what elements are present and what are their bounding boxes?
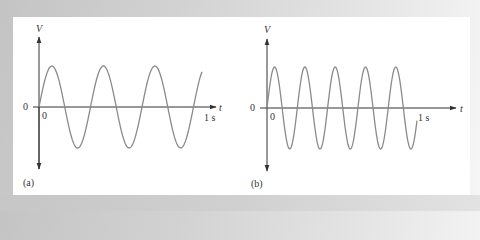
- panel-b-y-origin-label: 0: [250, 103, 255, 113]
- panel-b-caption: (b): [251, 179, 263, 189]
- panel-b-y-axis-label: V: [264, 25, 270, 35]
- panel-a-x-origin-label: 0: [42, 111, 47, 121]
- panel-a-x-axis-label: t: [219, 103, 222, 113]
- panel-b-x-origin-label: 0: [270, 112, 275, 122]
- panel-a-y-axis-label: V: [36, 24, 42, 34]
- panel-a-y-origin-label: 0: [23, 102, 28, 112]
- panel-a-caption: (a): [23, 178, 34, 188]
- panel-a-x-end-label: 1 s: [204, 113, 215, 123]
- panel-b-x-axis-label: t: [460, 104, 463, 114]
- panel-a-axes: [33, 37, 216, 169]
- panel-b-x-end-label: 1 s: [418, 113, 429, 123]
- waveform-figure: [0, 0, 480, 211]
